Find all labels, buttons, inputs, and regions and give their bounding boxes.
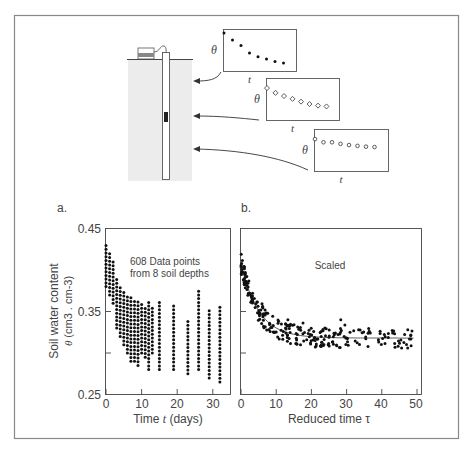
data-point [208, 309, 211, 312]
data-point [122, 306, 125, 309]
data-point [115, 301, 118, 304]
data-point [258, 313, 261, 316]
data-point [108, 279, 111, 282]
data-point [197, 361, 200, 364]
data-point [151, 322, 154, 325]
figure: θtθtθt a. 608 Data points from 8 soil de… [0, 0, 470, 449]
data-point [197, 357, 200, 360]
data-point [115, 304, 118, 307]
data-point [264, 314, 267, 317]
data-point [115, 312, 118, 315]
data-point [129, 319, 132, 322]
data-point [137, 364, 140, 367]
data-point [158, 364, 161, 367]
data-point [172, 331, 175, 334]
data-point [129, 308, 132, 311]
data-point [332, 335, 335, 338]
data-point [218, 347, 221, 350]
well-diagram [127, 46, 193, 181]
data-point [240, 262, 243, 265]
data-point [367, 345, 370, 348]
data-point [151, 337, 154, 340]
inset-point [248, 52, 251, 55]
data-point [218, 332, 221, 335]
data-point [126, 314, 129, 317]
data-point [197, 308, 200, 311]
data-point [126, 340, 129, 343]
panel-a-ytick-025: 0.25 [78, 388, 102, 402]
data-point [405, 343, 408, 346]
data-point [140, 329, 143, 332]
data-point [129, 330, 132, 333]
data-point [158, 357, 161, 360]
data-point [240, 272, 243, 275]
data-point [147, 312, 150, 315]
data-point [122, 328, 125, 331]
data-point [137, 353, 140, 356]
data-point [411, 330, 414, 333]
data-point [140, 340, 143, 343]
data-point [339, 318, 342, 321]
data-point [105, 266, 108, 269]
data-point [339, 331, 342, 334]
data-point [280, 323, 283, 326]
data-point [133, 337, 136, 340]
data-point [158, 308, 161, 311]
data-point [108, 252, 111, 255]
data-point [331, 340, 334, 343]
data-point [108, 271, 111, 274]
data-point [126, 303, 129, 306]
data-point [151, 348, 154, 351]
data-point [289, 342, 292, 345]
data-point [295, 339, 298, 342]
data-point [320, 341, 323, 344]
data-point [144, 307, 147, 310]
inset-point [347, 143, 351, 147]
data-point [277, 322, 280, 325]
data-point [137, 330, 140, 333]
data-point [197, 305, 200, 308]
data-point [158, 305, 161, 308]
data-point [186, 369, 189, 372]
data-point [208, 332, 211, 335]
data-point [129, 356, 132, 359]
data-point [119, 331, 122, 334]
data-point [406, 328, 409, 331]
data-point [208, 343, 211, 346]
panel-a-ytick-045: 0.45 [78, 222, 102, 236]
data-point [119, 305, 122, 308]
data-point [129, 311, 132, 314]
data-point [119, 316, 122, 319]
data-point [186, 324, 189, 327]
data-point [119, 309, 122, 312]
data-point [357, 328, 360, 331]
data-point [133, 300, 136, 303]
data-point [112, 261, 115, 264]
data-point [218, 381, 221, 384]
data-point [129, 352, 132, 355]
data-point [122, 291, 125, 294]
data-point [309, 333, 312, 336]
data-point [133, 360, 136, 363]
data-point [126, 322, 129, 325]
data-point [208, 313, 211, 316]
data-point [325, 327, 328, 330]
data-point [108, 267, 111, 270]
data-point [133, 352, 136, 355]
data-point [172, 364, 175, 367]
data-point [208, 339, 211, 342]
inset-axes [315, 130, 389, 172]
data-point [137, 342, 140, 345]
data-point [129, 326, 132, 329]
data-point [261, 302, 264, 305]
data-point [126, 337, 129, 340]
data-point [126, 296, 129, 299]
data-point [137, 360, 140, 363]
data-point [147, 305, 150, 308]
data-point [133, 322, 136, 325]
soil-block [128, 60, 192, 181]
data-point [158, 320, 161, 323]
data-point [379, 332, 382, 335]
data-point [303, 331, 306, 334]
data-point [387, 336, 390, 339]
